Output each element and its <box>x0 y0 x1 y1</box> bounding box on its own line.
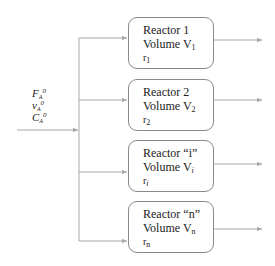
reactor-rate: r1 <box>143 51 213 65</box>
reactor-1-box: Reactor 1 Volume V1 r1 <box>128 17 214 69</box>
reactor-volume: Volume V2 <box>143 99 213 113</box>
reactor-title: Reactor “n” <box>143 207 213 221</box>
feed-concentration-label: CA0 <box>32 111 47 123</box>
reactor-i-box: Reactor “i” Volume Vi ri <box>128 140 214 192</box>
reactor-volume: Volume Vi <box>143 160 213 174</box>
feed-volumetric-label: vA0 <box>32 99 47 111</box>
reactor-title: Reactor 2 <box>143 85 213 99</box>
reactor-rate: ri <box>143 174 213 188</box>
reactor-rate: r2 <box>143 113 213 127</box>
reactor-2-box: Reactor 2 Volume V2 r2 <box>128 79 214 131</box>
feed-flow-label: FA0 <box>32 87 47 99</box>
reactor-title: Reactor 1 <box>143 23 213 37</box>
reactor-volume: Volume Vn <box>143 221 213 235</box>
reactor-n-box: Reactor “n” Volume Vn rn <box>128 201 214 253</box>
feed-conditions: FA0 vA0 CA0 <box>32 87 47 123</box>
reactor-rate: rn <box>143 235 213 249</box>
reactor-title: Reactor “i” <box>143 146 213 160</box>
reactor-volume: Volume V1 <box>143 37 213 51</box>
